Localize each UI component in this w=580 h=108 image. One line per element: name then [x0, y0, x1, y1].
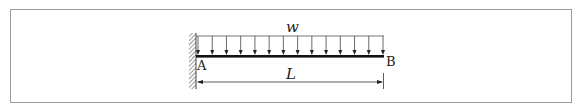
load-arrow-head [353, 50, 357, 55]
load-label-w: w [286, 18, 299, 36]
load-arrow-head [367, 50, 371, 55]
load-arrow-head [239, 50, 243, 55]
load-arrow-head [324, 50, 328, 55]
free-end-label-b: B [386, 54, 396, 69]
load-arrow-head [281, 50, 285, 55]
load-arrow-head [338, 50, 342, 55]
load-arrow-head [381, 50, 385, 55]
cantilever-beam-diagram: w A B L [0, 0, 580, 108]
load-arrow-head [253, 50, 257, 55]
load-arrow-head [224, 50, 228, 55]
load-arrow-head [310, 50, 314, 55]
length-label-l: L [285, 65, 296, 83]
load-arrow-head [296, 50, 300, 55]
beam [196, 55, 384, 58]
fixed-support-wall [189, 33, 196, 89]
load-arrow-head [267, 50, 271, 55]
load-arrow-head [210, 50, 214, 55]
load-arrow-head [196, 50, 200, 55]
distributed-load [196, 36, 385, 55]
support-label-a: A [196, 58, 207, 73]
load-arrows [196, 36, 385, 55]
